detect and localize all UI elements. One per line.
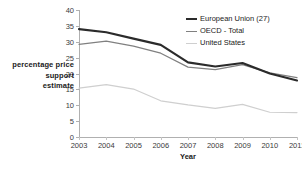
y-tick-label: 25	[66, 53, 74, 62]
x-tick-mark	[106, 137, 107, 140]
series-line	[79, 85, 297, 113]
legend-label: European Union (27)	[200, 13, 270, 25]
x-tick-mark	[243, 137, 244, 140]
y-tick-label: 35	[66, 21, 74, 30]
x-tick-label: 2009	[234, 141, 251, 150]
x-tick-mark	[79, 137, 80, 140]
x-tick-label: 2005	[125, 141, 142, 150]
y-axis-title-line-3: estimate	[2, 81, 74, 92]
legend-label: United States	[200, 37, 245, 49]
legend-entry: European Union (27)	[186, 13, 270, 25]
y-tick-label: 10	[66, 101, 74, 110]
y-axis-title: percentage price support estimate	[2, 60, 74, 92]
x-tick-label: 2010	[261, 141, 278, 150]
x-tick-label: 2007	[180, 141, 197, 150]
x-tick-mark	[188, 137, 189, 140]
legend-color-swatch	[186, 43, 197, 44]
x-tick-mark	[215, 137, 216, 140]
y-tick-label: 30	[66, 37, 74, 46]
y-tick-label: 20	[66, 69, 74, 78]
x-tick-label: 2004	[98, 141, 115, 150]
y-tick-label: 15	[66, 85, 74, 94]
x-axis-title: Year	[79, 152, 297, 161]
y-tick-label: 5	[70, 117, 74, 126]
x-tick-label: 2006	[152, 141, 169, 150]
x-tick-mark	[161, 137, 162, 140]
y-axis-title-line-1: percentage price	[2, 60, 74, 71]
legend-color-swatch	[186, 31, 197, 32]
x-tick-mark	[134, 137, 135, 140]
x-tick-mark	[297, 137, 298, 140]
legend-entry: OECD - Total	[186, 25, 270, 37]
legend-entry: United States	[186, 37, 270, 49]
x-tick-label: 2003	[71, 141, 88, 150]
price-support-estimate-line-chart: percentage price support estimate 051015…	[0, 0, 302, 171]
chart-legend: European Union (27)OECD - TotalUnited St…	[186, 13, 270, 49]
x-tick-mark	[270, 137, 271, 140]
legend-color-swatch	[186, 18, 197, 20]
y-tick-label: 40	[66, 6, 74, 15]
legend-label: OECD - Total	[200, 25, 244, 37]
x-tick-label: 2008	[207, 141, 224, 150]
y-axis-title-line-2: support	[2, 71, 74, 82]
x-tick-label: 2011	[289, 141, 302, 150]
